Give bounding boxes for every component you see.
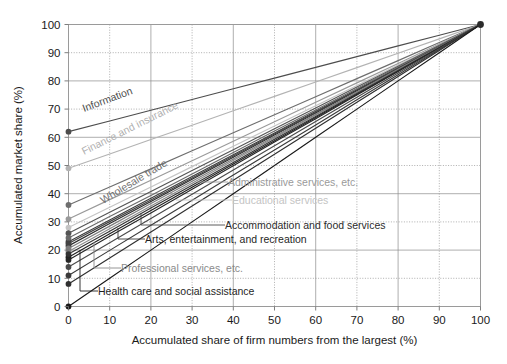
- intercept-marker: [66, 165, 72, 171]
- x-tick-label: 50: [268, 314, 281, 326]
- intercept-marker: [66, 202, 72, 208]
- x-tick-label: 80: [392, 314, 405, 326]
- x-tick-label: 100: [471, 314, 490, 326]
- intercept-marker: [66, 257, 72, 263]
- x-tick-label: 0: [65, 314, 71, 326]
- curve-label-accommodation: Accommodation and food services: [225, 219, 386, 231]
- y-tick-label: 50: [48, 160, 61, 172]
- intercept-marker: [66, 251, 72, 257]
- x-tick-label: 40: [227, 314, 240, 326]
- convergence-marker: [477, 21, 484, 28]
- x-tick-label: 10: [103, 314, 116, 326]
- intercept-marker: [66, 225, 72, 231]
- concentration-curve-figure: Information Finance and insurance Wholes…: [0, 0, 507, 364]
- intercept-marker: [66, 264, 72, 270]
- intercept-marker: [66, 281, 72, 287]
- y-tick-label: 100: [41, 19, 60, 31]
- y-tick-label: 80: [48, 75, 61, 87]
- curve-label-professional: Professional services, etc.: [121, 262, 243, 274]
- intercept-marker: [66, 273, 72, 279]
- intercept-marker: [66, 216, 72, 222]
- x-tick-label: 90: [433, 314, 446, 326]
- y-tick-label: 60: [48, 132, 61, 144]
- x-tick-label: 30: [186, 314, 199, 326]
- curve-label-arts: Arts, entertainment, and recreation: [145, 233, 307, 245]
- curve-label-administrative: Administrative services, etc.: [228, 176, 358, 188]
- x-tick-label: 70: [351, 314, 364, 326]
- curve-label-educational: Educational services: [232, 194, 328, 206]
- y-tick-label: 40: [48, 188, 61, 200]
- curve-label-health: Health care and social assistance: [98, 285, 255, 297]
- intercept-marker: [66, 129, 72, 135]
- x-axis-title: Accumulated share of firm numbers from t…: [132, 334, 418, 346]
- y-tick-label: 90: [48, 47, 61, 59]
- intercept-marker: [66, 235, 72, 241]
- x-tick-label: 20: [145, 314, 158, 326]
- y-tick-label: 0: [54, 301, 60, 313]
- y-tick-label: 20: [48, 244, 61, 256]
- y-axis-title: Accumulated market share (%): [12, 86, 24, 244]
- x-tick-label: 60: [309, 314, 322, 326]
- y-tick-label: 10: [48, 273, 61, 285]
- y-tick-label: 30: [48, 216, 61, 228]
- lorenz-curve-chart: Information Finance and insurance Wholes…: [0, 0, 507, 364]
- y-tick-label: 70: [48, 103, 61, 115]
